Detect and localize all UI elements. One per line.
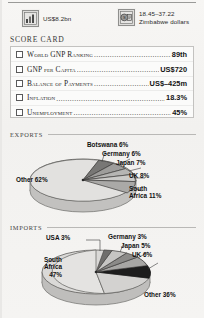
- imports-label-uk: UK 6%: [132, 251, 152, 258]
- score-card-row-world-gnp-ranking: World GNP Ranking 89th: [11, 47, 193, 61]
- exports-label-japan: Japan 7%: [116, 159, 145, 166]
- top-divider: [8, 2, 196, 3]
- imports-caption: IMPORTS: [10, 224, 42, 231]
- gnp-stat-value: US$8.2bn: [43, 15, 71, 22]
- svg-text:S: S: [123, 15, 126, 20]
- imports-label-germany: Germany 3%: [108, 233, 147, 240]
- exports-pie-chart: Botswana 6% Germany 6% Japan 7% UK 8% So…: [8, 138, 196, 220]
- score-card-label: Unemployment: [27, 108, 72, 117]
- exports-caption: EXPORTS: [10, 131, 43, 138]
- currency-stat-value: 18.45–37.22Zimbabwe dollars: [139, 10, 189, 24]
- currency-exchange-icon: S: [118, 9, 135, 26]
- imports-label-usa: USA 3%: [46, 234, 70, 241]
- score-card-value: US$–425m: [150, 79, 187, 88]
- score-card-value: 45%: [172, 108, 187, 117]
- score-card-value: US$720: [160, 65, 187, 74]
- score-card-box: World GNP Ranking 89th GNP per Capita US…: [10, 46, 194, 118]
- exports-label-south-africa-line1: South: [129, 185, 147, 192]
- score-card-row-balance-of-payments: Balance of Payments US$–425m: [11, 76, 193, 90]
- imports-label-south-africa-line3: 47%: [49, 271, 62, 278]
- exports-label-uk: UK 8%: [129, 172, 149, 179]
- score-card-row-gnp-per-capita: GNP per Capita US$720: [11, 61, 193, 75]
- score-card-label: World GNP Ranking: [27, 50, 93, 59]
- imports-label-south-africa-line2: Africa: [44, 263, 62, 270]
- score-card-value: 89th: [172, 50, 187, 59]
- score-card-row-unemployment: Unemployment 45%: [11, 105, 193, 119]
- country-profile-page: US$8.2bn S 18.45–37.22Zimbabwe dollars S…: [0, 0, 204, 318]
- exports-label-botswana: Botswana 6%: [87, 141, 128, 148]
- currency-name: Zimbabwe dollars: [139, 18, 189, 25]
- currency-stat: S 18.45–37.22Zimbabwe dollars: [118, 9, 189, 26]
- leader-dots: [77, 65, 160, 73]
- checkbox-icon: [16, 51, 23, 58]
- exports-label-other: Other 62%: [16, 176, 48, 183]
- score-card-heading: SCORE CARD: [10, 35, 64, 44]
- score-card-label: GNP per Capita: [27, 65, 76, 74]
- checkbox-icon: [16, 66, 23, 73]
- exports-label-south-africa: SouthAfrica 11%: [129, 185, 161, 200]
- page-left-edge: [0, 0, 2, 318]
- leader-dots: [73, 108, 171, 116]
- exports-label-germany: Germany 6%: [102, 150, 141, 157]
- leader-dots: [56, 94, 165, 102]
- checkbox-icon: [16, 94, 23, 101]
- exports-section-header: EXPORTS: [10, 131, 196, 138]
- imports-label-other: Other 36%: [144, 291, 176, 298]
- score-card-value: 18.3%: [166, 93, 187, 102]
- top-stat-row: US$8.2bn S 18.45–37.22Zimbabwe dollars: [8, 10, 198, 30]
- bar-chart-icon: [22, 10, 39, 27]
- exports-label-south-africa-line2: Africa 11%: [129, 192, 161, 199]
- score-card-row-inflation: Inflation 18.3%: [11, 90, 193, 104]
- leader-dots: [94, 50, 171, 58]
- currency-range: 18.45–37.22: [139, 10, 175, 17]
- imports-section-header: IMPORTS: [10, 224, 196, 231]
- leader-dots: [94, 79, 149, 87]
- score-card-label: Balance of Payments: [27, 79, 93, 88]
- section-rule: [48, 134, 196, 135]
- imports-label-south-africa: SouthAfrica47%: [22, 256, 62, 278]
- score-card-label: Inflation: [27, 93, 55, 102]
- imports-label-japan: Japan 5%: [121, 242, 150, 249]
- checkbox-icon: [16, 109, 23, 116]
- section-rule: [47, 227, 196, 228]
- imports-label-south-africa-line1: South: [44, 256, 62, 263]
- checkbox-icon: [16, 80, 23, 87]
- gnp-stat: US$8.2bn: [22, 10, 71, 27]
- imports-pie-chart: USA 3% Germany 3% Japan 5% UK 6% SouthAf…: [8, 231, 196, 316]
